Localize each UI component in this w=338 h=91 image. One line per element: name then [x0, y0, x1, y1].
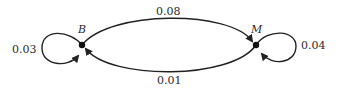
edge-m-to-m: 0.04 — [256, 33, 326, 61]
edge-b-to-m: 0.08 — [82, 5, 252, 45]
edge-label-b-b: 0.03 — [12, 43, 37, 56]
node-b: B — [77, 23, 86, 48]
edge-label-m-m: 0.04 — [301, 39, 326, 52]
node-b-dot — [79, 42, 85, 48]
markov-chain-diagram: 0.03 0.08 0.01 0.04 B M — [0, 0, 338, 91]
node-m-label: M — [250, 23, 263, 36]
edge-label-m-b: 0.01 — [157, 74, 182, 87]
edge-label-b-m: 0.08 — [156, 5, 181, 18]
node-b-label: B — [77, 23, 86, 36]
node-m: M — [250, 23, 263, 48]
node-m-dot — [253, 42, 259, 48]
edge-m-to-b: 0.01 — [86, 45, 256, 87]
edge-b-to-b: 0.03 — [12, 33, 82, 63]
